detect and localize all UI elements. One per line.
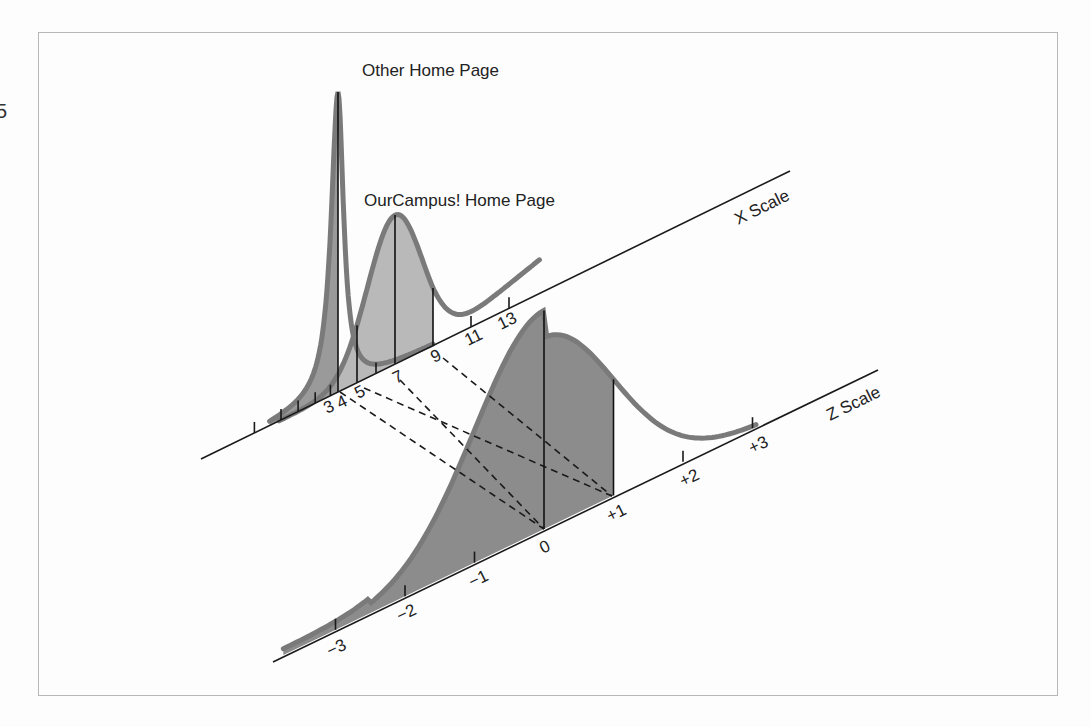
z-tick-label-0: 0 — [536, 536, 553, 557]
z-tick-label-minus-3: −3 — [323, 635, 349, 661]
distribution-diagram: Other Home Page OurCampus! Home Page X S… — [0, 0, 1091, 727]
z-tick-label-minus-2: −2 — [393, 600, 419, 626]
z-tick-label-plus-3: +3 — [745, 432, 771, 458]
z-tick-label-plus-1: +1 — [603, 500, 629, 526]
x-tick-label-7: 7 — [389, 366, 406, 387]
z-tick-label-plus-2: +2 — [676, 465, 702, 491]
x-tick-label-11: 11 — [461, 325, 485, 350]
x-tick-label-13: 13 — [494, 308, 519, 333]
z-tick-label-minus-1: −1 — [465, 566, 491, 592]
ourcampus-home-page-label: OurCampus! Home Page — [364, 191, 555, 210]
z-scale-label: Z Scale — [823, 382, 883, 424]
x-tick-label-4: 4 — [333, 391, 350, 412]
x-tick-label-9: 9 — [427, 345, 444, 366]
x-tick-label-5: 5 — [351, 381, 368, 402]
x-scale-label: X Scale — [731, 186, 792, 229]
other-home-page-label: Other Home Page — [362, 61, 499, 80]
